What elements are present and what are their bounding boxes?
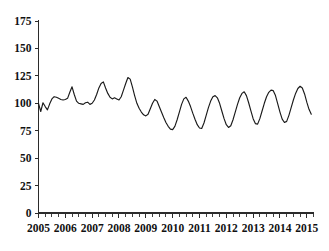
y-tick-label: 150: [14, 42, 32, 54]
y-tick-label: 25: [20, 180, 32, 192]
x-tick-label: 2015: [295, 222, 318, 234]
x-axis-group: 2005200620072008200920102011201220132014…: [27, 213, 319, 234]
x-tick-label: 2005: [27, 222, 50, 234]
x-tick-label: 2010: [161, 222, 184, 234]
y-tick-label: 50: [20, 152, 32, 164]
data-series-line: [39, 78, 312, 130]
chart-container: 0255075100125150175 20052006200720082009…: [0, 0, 329, 251]
x-tick-label: 2009: [134, 222, 157, 234]
y-tick-label: 75: [20, 125, 32, 137]
x-tick-label: 2011: [188, 222, 211, 234]
y-tick-label: 100: [14, 97, 32, 109]
y-tick-label: 125: [14, 70, 32, 82]
line-chart: 0255075100125150175 20052006200720082009…: [0, 0, 329, 251]
x-tick-label: 2014: [268, 222, 291, 234]
x-axis-tick-labels: 2005200620072008200920102011201220132014…: [27, 222, 319, 234]
x-tick-label: 2007: [81, 222, 104, 234]
y-axis-ticks: [35, 21, 39, 213]
y-axis-tick-labels: 0255075100125150175: [14, 15, 32, 219]
plot-area: [39, 78, 312, 130]
x-axis-minor-ticks: [39, 213, 314, 218]
x-tick-label: 2006: [54, 222, 77, 234]
y-tick-label: 175: [14, 15, 32, 27]
x-tick-label: 2012: [215, 222, 238, 234]
y-axis-group: 0255075100125150175: [14, 15, 38, 219]
x-tick-label: 2013: [242, 222, 265, 234]
x-tick-label: 2008: [107, 222, 130, 234]
y-tick-label: 0: [26, 207, 32, 219]
